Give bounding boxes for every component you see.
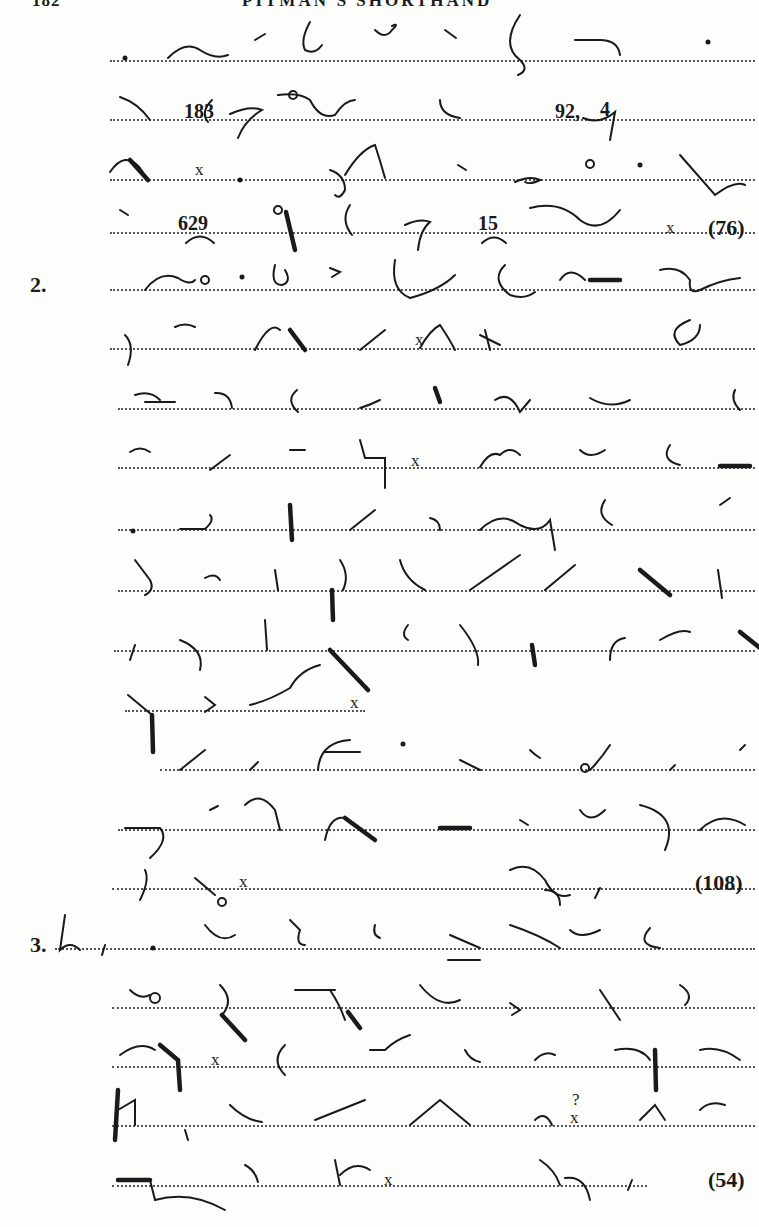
shorthand-outlines	[0, 0, 759, 1227]
